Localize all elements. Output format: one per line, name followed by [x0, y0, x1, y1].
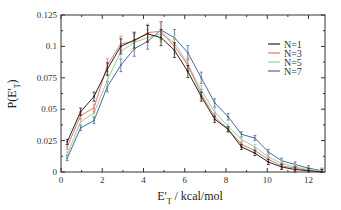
data-point: [66, 141, 68, 143]
data-point: [308, 170, 310, 172]
y-tick-label: 0.025: [37, 136, 58, 146]
y-tick-label: 0.125: [37, 10, 58, 20]
data-point: [294, 169, 296, 171]
data-point: [93, 96, 95, 98]
data-point: [160, 37, 162, 39]
data-point: [281, 166, 283, 168]
data-point: [321, 171, 323, 173]
data-point: [66, 154, 68, 156]
x-tick-label: 0: [59, 175, 64, 185]
x-tick-label: 2: [100, 175, 105, 185]
data-point: [107, 68, 109, 70]
x-tick-label: 12: [304, 175, 313, 185]
y-axis: 00.0250.050.0750.10.125: [37, 10, 325, 177]
data-point: [254, 137, 256, 139]
data-point: [214, 111, 216, 113]
data-point: [80, 127, 82, 129]
data-point: [80, 121, 82, 123]
data-point: [254, 146, 256, 148]
data-point: [254, 152, 256, 154]
data-point: [66, 157, 68, 159]
data-point: [267, 151, 269, 153]
x-tick-label: 10: [263, 175, 273, 185]
data-point: [66, 146, 68, 148]
y-tick-label: 0: [53, 167, 58, 177]
data-point: [187, 52, 189, 54]
data-point: [93, 120, 95, 122]
data-point: [187, 71, 189, 73]
data-point: [107, 79, 109, 81]
data-point: [241, 146, 243, 148]
data-point: [174, 49, 176, 51]
legend-label: N=7: [284, 66, 302, 77]
y-tick-label: 0.1: [46, 41, 57, 51]
data-point: [120, 64, 122, 66]
x-tick-label: 4: [141, 175, 146, 185]
data-point: [200, 96, 202, 98]
data-point: [241, 138, 243, 140]
x-tick-label: 8: [224, 175, 229, 185]
data-point: [120, 46, 122, 48]
data-point: [93, 107, 95, 109]
chart: 024681012 00.0250.050.0750.10.125 N=1N=3…: [0, 0, 341, 210]
data-point: [214, 102, 216, 104]
y-tick-label: 0.05: [41, 104, 57, 114]
y-tick-label: 0.075: [37, 73, 58, 83]
data-point: [227, 128, 229, 130]
x-tick-label: 6: [183, 175, 188, 185]
data-point: [80, 111, 82, 113]
data-point: [133, 39, 135, 41]
x-axis-label: E'T / kcal/mol: [157, 189, 223, 206]
data-point: [227, 116, 229, 118]
data-point: [200, 77, 202, 79]
y-axis-label: P(E'T): [5, 79, 22, 108]
data-point: [214, 118, 216, 120]
data-point: [241, 133, 243, 135]
legend: N=1N=3N=5N=7: [268, 39, 302, 77]
data-point: [93, 112, 95, 114]
data-point: [147, 33, 149, 35]
data-point: [267, 161, 269, 163]
